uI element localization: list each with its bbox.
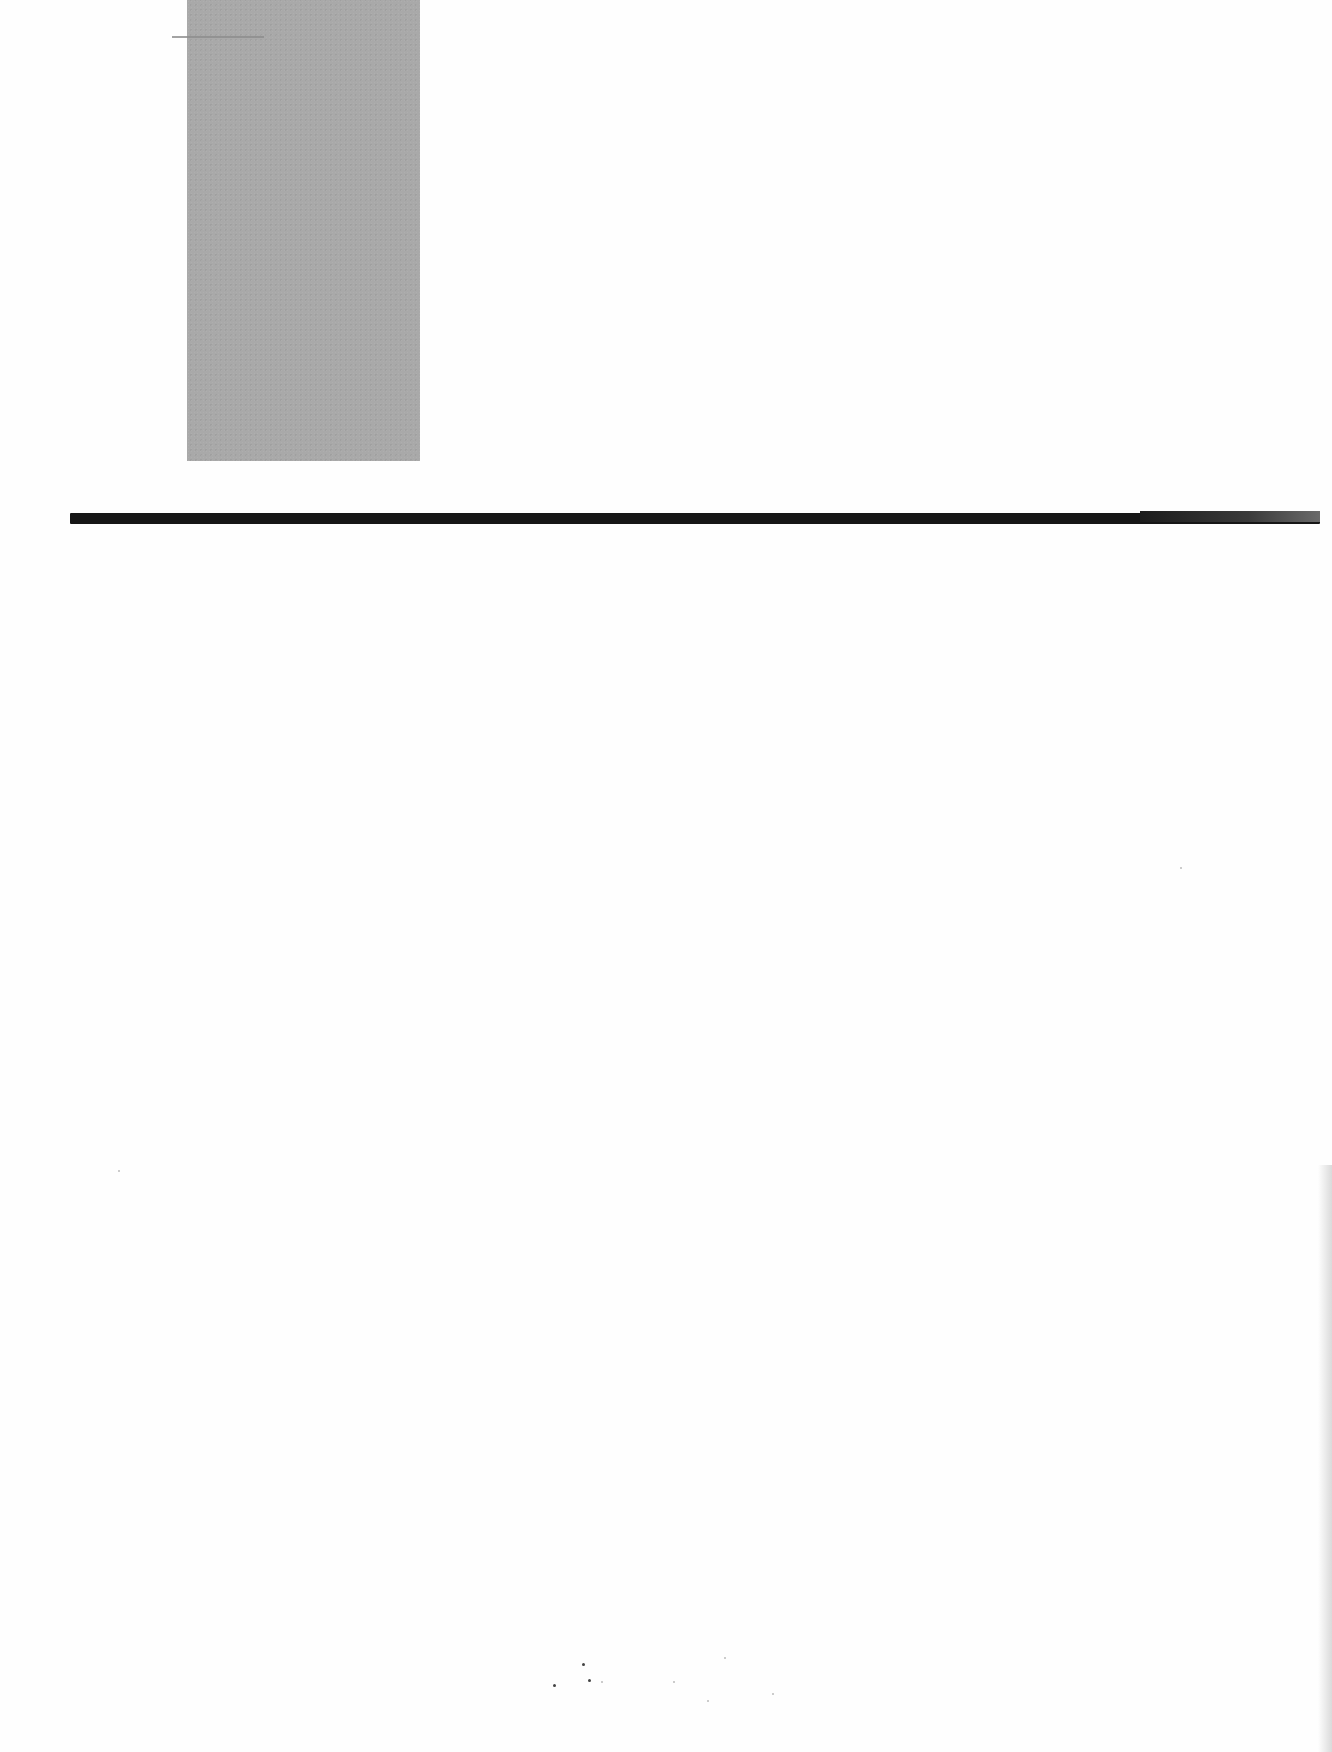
horizontal-rule [70,513,1320,524]
scan-speck [1180,867,1182,869]
scan-speck [707,1700,709,1702]
scan-speck [582,1663,585,1666]
document-page [0,0,1332,1752]
scan-speck [724,1657,726,1659]
scan-speck [772,1693,774,1695]
scan-speck [588,1679,591,1682]
scan-speck [673,1681,675,1683]
scan-speck [553,1684,556,1687]
short-rule [172,36,264,38]
image-block [187,0,420,461]
scan-speck [118,1170,120,1172]
horizontal-rule-fade [1140,511,1320,522]
page-text [0,0,1,1]
page-edge-shadow [1318,1165,1332,1752]
scan-speck [601,1681,603,1683]
